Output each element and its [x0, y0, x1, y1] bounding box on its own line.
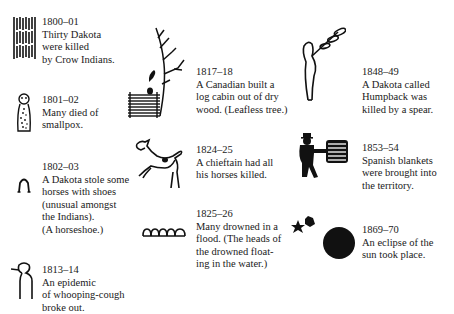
tally-marks-icon [12, 16, 38, 60]
coughing-figure-icon [11, 261, 37, 301]
caption-line: broke out. [42, 302, 125, 314]
caption-line: the territory. [362, 180, 437, 193]
caption-line: were killed [42, 41, 115, 54]
entry-caption: 1853–54 Spanish blankets were brought in… [362, 142, 437, 192]
caption-line: (unusual amongst [42, 199, 129, 212]
entry-caption: 1869–70 An eclipse of the sun took place… [362, 224, 433, 262]
caption-line: sun took place. [362, 249, 433, 262]
caption-line: his horses killed. [196, 169, 273, 182]
caption-line: of whooping-cough [42, 289, 125, 302]
entry-year: 1800–01 [42, 16, 115, 29]
caption-line: Spanish blankets [362, 155, 437, 168]
horseshoe-icon [17, 177, 31, 193]
entry-caption: 1848–49 A Dakota called Humpback was kil… [362, 66, 433, 116]
entry-year: 1802–03 [42, 161, 129, 174]
caption-line: An eclipse of the [362, 237, 433, 250]
entry-year: 1853–54 [362, 142, 437, 155]
caption-line: flood. (The heads of [196, 233, 281, 246]
eclipse-stars-icon [290, 214, 356, 262]
caption-line: the drowned float- [196, 246, 281, 259]
entry-year: 1813–14 [42, 264, 125, 277]
caption-line: ing in the water.) [196, 258, 281, 271]
caption-line: Thirty Dakota [42, 29, 115, 42]
caption-line: horses with shoes [42, 186, 129, 199]
entry-caption: 1824–25 A chieftain had all his horses k… [196, 144, 273, 182]
entry-caption: 1817–18 A Canadian built a log cabin out… [196, 66, 288, 116]
smallpox-figure-icon [15, 93, 33, 133]
caption-line: wood. (Leafless tree.) [196, 104, 288, 117]
entry-caption: 1813–14 An epidemic of whooping-cough br… [42, 264, 125, 314]
caption-line: Many drowned in a [196, 221, 281, 234]
caption-line: killed by a spear. [362, 104, 433, 117]
humpback-spear-icon [300, 26, 346, 102]
entry-year: 1817–18 [196, 66, 288, 79]
entry-caption: 1802–03 A Dakota stole some horses with … [42, 161, 129, 237]
caption-line: by Crow Indians. [42, 54, 115, 67]
caption-line: A Dakota stole some [42, 174, 129, 187]
entry-year: 1801–02 [42, 94, 99, 107]
entry-year: 1869–70 [362, 224, 433, 237]
caption-line: smallpox. [42, 119, 99, 132]
caption-line: Many died of [42, 107, 99, 120]
entry-caption: 1825–26 Many drowned in a flood. (The he… [196, 208, 281, 271]
horse-icon [135, 138, 187, 190]
floating-heads-icon [142, 226, 186, 238]
entry-caption: 1800–01 Thirty Dakota were killed by Cro… [42, 16, 115, 66]
entry-caption: 1801–02 Many died of smallpox. [42, 94, 99, 132]
log-cabin-tree-icon [126, 24, 188, 120]
entry-year: 1848–49 [362, 66, 433, 79]
caption-line: An epidemic [42, 277, 125, 290]
caption-line: were brought into [362, 167, 437, 180]
caption-line: A chieftain had all [196, 157, 273, 170]
entry-year: 1825–26 [196, 208, 281, 221]
man-with-blanket-icon [296, 131, 350, 181]
caption-line: A Canadian built a [196, 79, 288, 92]
caption-line: the Indians). [42, 211, 129, 224]
entry-year: 1824–25 [196, 144, 273, 157]
caption-line: Humpback was [362, 91, 433, 104]
caption-line: A Dakota called [362, 79, 433, 92]
caption-line: (A horseshoe.) [42, 224, 129, 237]
caption-line: log cabin out of dry [196, 91, 288, 104]
